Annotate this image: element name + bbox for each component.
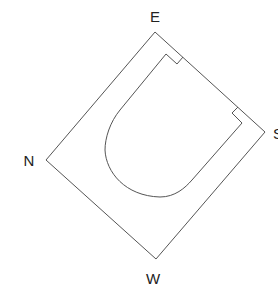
label-north: N bbox=[24, 152, 35, 169]
inner-u-shape bbox=[105, 54, 242, 197]
floor-plan-diagram: E S W N bbox=[0, 0, 278, 289]
label-west: W bbox=[146, 270, 161, 287]
label-south: S bbox=[273, 125, 278, 142]
label-east: E bbox=[150, 8, 160, 25]
